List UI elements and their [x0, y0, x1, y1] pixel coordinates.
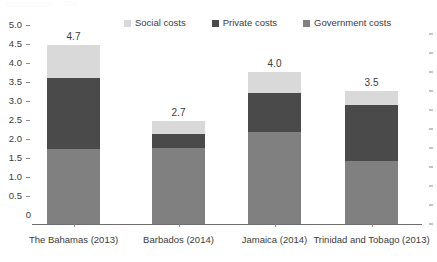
y-axis-tick-mark — [26, 101, 30, 102]
y-axis-tick: 0 — [11, 210, 32, 220]
y-axis-tick-mark-right — [429, 72, 433, 73]
scan-artifact — [64, 1, 78, 6]
y-axis-tick-mark-right — [429, 148, 433, 149]
y-axis-tick: 1.0 — [2, 172, 32, 182]
bar-segment[interactable] — [47, 45, 100, 77]
y-axis-tick-label: 3.0 — [2, 96, 22, 106]
y-axis-tick: 1.5 — [2, 153, 32, 163]
x-axis-labels: The Bahamas (2013)Barbados (2014)Jamaica… — [0, 234, 432, 250]
x-axis-category-label: Trinidad and Tobago (2013) — [302, 234, 437, 246]
y-axis-tick: 2.0 — [2, 134, 32, 144]
y-axis-tick: 2.5 — [2, 115, 32, 125]
plot-area: 00.51.01.52.02.53.03.54.04.55.0 4.72.74.… — [32, 22, 422, 225]
bar-segment[interactable] — [47, 149, 100, 224]
bar-segment[interactable] — [345, 91, 398, 105]
y-axis-tick: 3.0 — [2, 96, 32, 106]
bar-group[interactable]: 4.7 — [47, 45, 100, 224]
scan-artifact — [6, 2, 52, 7]
y-axis-tick: 4.0 — [2, 58, 32, 68]
x-axis-tick-mark — [179, 224, 180, 227]
y-axis-tick: 5.0 — [2, 20, 32, 30]
bar-segment[interactable] — [152, 134, 205, 149]
y-axis-tick-mark — [26, 63, 30, 64]
y-axis-tick-mark-right — [429, 91, 433, 92]
bar-value-label: 2.7 — [152, 107, 205, 118]
y-axis-tick: 4.5 — [2, 39, 32, 49]
bar-segment[interactable] — [248, 93, 301, 132]
x-axis-tick-mark — [372, 224, 373, 227]
y-axis-tick-label: 1.0 — [2, 172, 22, 182]
y-axis-tick-mark-right — [429, 53, 433, 54]
bar-segment[interactable] — [248, 72, 301, 93]
bar-stack[interactable] — [47, 45, 100, 224]
y-axis-tick-mark-right — [429, 205, 433, 206]
x-axis-baseline — [32, 224, 422, 225]
bar-value-label: 3.5 — [345, 77, 398, 88]
y-axis-tick-label: 2.0 — [2, 134, 22, 144]
bar-segment[interactable] — [248, 132, 301, 224]
y-axis-tick-mark — [26, 82, 30, 83]
y-axis-tick-mark — [26, 120, 30, 121]
bar-stack[interactable] — [345, 91, 398, 224]
bar-stack[interactable] — [248, 72, 301, 224]
y-axis-tick-mark-right — [429, 186, 433, 187]
y-axis-tick-mark-right — [429, 129, 433, 130]
bar-segment[interactable] — [152, 148, 205, 224]
bar-group[interactable]: 3.5 — [345, 91, 398, 224]
x-axis-tick-mark — [275, 224, 276, 227]
y-axis-tick-mark — [26, 139, 30, 140]
y-axis-tick-mark-right — [429, 224, 433, 225]
y-axis-tick-label: 3.5 — [2, 77, 22, 87]
y-axis-tick-mark — [26, 196, 30, 197]
y-axis-tick-mark — [26, 177, 30, 178]
bar-group[interactable]: 2.7 — [152, 121, 205, 224]
y-axis-tick: 3.5 — [2, 77, 32, 87]
y-axis-tick-mark-right — [429, 34, 433, 35]
y-axis-tick-mark — [26, 44, 30, 45]
bar-value-label: 4.0 — [248, 58, 301, 69]
y-axis-tick-label: 0.5 — [2, 191, 22, 201]
y-axis-tick-mark — [26, 158, 30, 159]
y-axis-tick-label: 0 — [11, 210, 31, 220]
y-axis-tick-label: 4.5 — [2, 39, 22, 49]
y-axis-tick-mark-right — [429, 110, 433, 111]
y-axis-tick-mark-right — [429, 167, 433, 168]
y-axis-tick: 0.5 — [2, 191, 32, 201]
y-axis-tick-mark — [26, 25, 30, 26]
bar-segment[interactable] — [345, 161, 398, 224]
bar-stack[interactable] — [152, 121, 205, 224]
bar-segment[interactable] — [345, 105, 398, 161]
y-axis-tick-label: 5.0 — [2, 20, 22, 30]
bar-segment[interactable] — [47, 78, 100, 149]
bar-segment[interactable] — [152, 121, 205, 133]
y-axis-tick-label: 2.5 — [2, 115, 22, 125]
x-axis-tick-mark — [74, 224, 75, 227]
bar-group[interactable]: 4.0 — [248, 72, 301, 224]
bar-value-label: 4.7 — [47, 31, 100, 42]
y-axis-tick-label: 1.5 — [2, 153, 22, 163]
y-axis-tick-label: 4.0 — [2, 58, 22, 68]
